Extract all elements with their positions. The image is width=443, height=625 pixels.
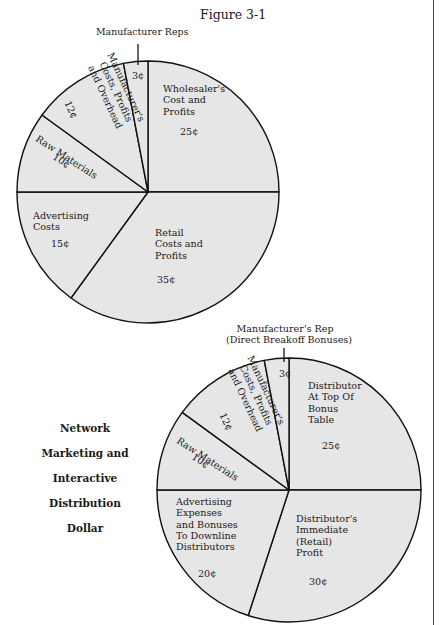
pie2-top-value: 25¢	[322, 440, 340, 451]
pie-chart-traditional	[17, 61, 279, 323]
pie1-wholesaler-value: 25¢	[180, 126, 198, 137]
pie1-adv-label: AdvertisingCosts	[33, 210, 89, 233]
pie2-adv-value: 20¢	[198, 568, 216, 579]
side-caption: Network Marketing and Interactive Distri…	[20, 416, 150, 541]
pie1-reps-value: 3¢	[132, 70, 144, 81]
pie1-retail-label: RetailCosts andProfits	[155, 227, 203, 261]
pie2-rep-callout: Manufacturer's Rep(Direct Breakoff Bonus…	[226, 323, 344, 346]
pie-slice	[148, 61, 279, 192]
pie-chart-network-marketing	[157, 358, 421, 622]
pie2-retail-value: 30¢	[309, 576, 327, 587]
pie1-adv-value: 15¢	[51, 238, 69, 249]
pie2-adv-label: AdvertisingExpensesand BonusesTo Downlin…	[176, 496, 238, 552]
pie2-retail-label: Distributor'sImmediate(Retail)Profit	[296, 513, 357, 558]
pie1-wholesaler-label: Wholesaler'sCost andProfits	[163, 83, 225, 117]
pie1-reps-callout: Manufacturer Reps	[96, 26, 188, 37]
pie1-retail-value: 35¢	[157, 274, 175, 285]
pie2-top-label: DistributorAt Top OfBonusTable	[308, 380, 362, 425]
pie2-rep-value: 3¢	[279, 368, 291, 379]
